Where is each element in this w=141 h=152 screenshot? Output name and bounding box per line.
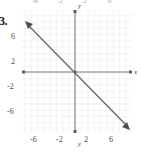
clipped-tick-label: -2 (57, 0, 63, 5)
x-tick-label-2: 2 (84, 135, 88, 144)
clipped-tick-row-above: -6 -2 2 6 (22, 0, 141, 7)
coordinate-plane (22, 10, 132, 133)
problem-number: 3. (0, 15, 7, 27)
x-axis-label-right: x (134, 68, 137, 76)
clipped-tick-label: 6 (108, 0, 112, 5)
y-tick-label-neg6: -6 (7, 107, 14, 116)
x-tick-label-6: 6 (109, 135, 113, 144)
clipped-tick-label: 2 (83, 0, 87, 5)
y-tick-label-2: 2 (11, 57, 15, 66)
y-tick-label-neg2: -2 (7, 82, 14, 91)
x-tick-label-neg6: -6 (30, 135, 37, 144)
y-axis-label-bottom: y (78, 140, 81, 148)
graph-figure: 3. -6 -2 2 6 (0, 0, 141, 152)
y-tick-label-6: 6 (11, 32, 15, 41)
clipped-tick-label: -6 (32, 0, 38, 5)
origin-point (73, 70, 76, 73)
y-axis-label-top: y (78, 2, 81, 10)
x-tick-label-neg2: -2 (56, 135, 63, 144)
